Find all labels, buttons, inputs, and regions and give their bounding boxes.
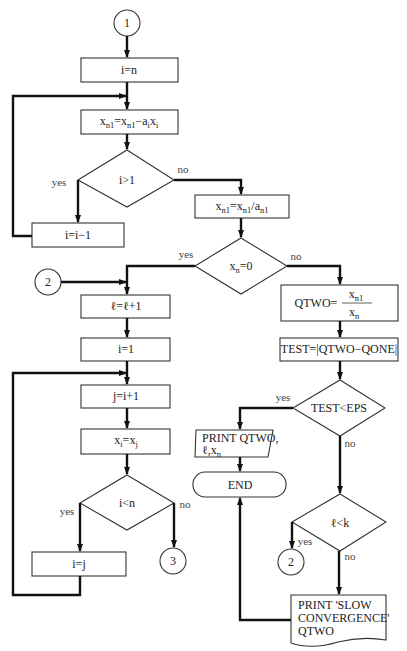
branch-label-no: no [291,250,303,262]
process-xn1-divide: xn1=xn1/an1 [195,195,289,218]
connector-2-left: 2 [35,269,61,295]
connector-label: 3 [170,554,176,568]
connector-3: 3 [160,548,186,574]
process-l-increment: ℓ=ℓ+1 [81,295,170,318]
connector-label: 2 [288,555,294,569]
flow-arrow [174,180,241,194]
terminal-end: END [193,472,286,497]
node-label: i=n [121,63,137,77]
flowchart: 1 i=n xn1=xn1−aixi i>1 yes no i=i−1 xn1=… [0,0,407,651]
decision-test-lt-eps: TEST<EPS [293,380,385,436]
process-test-assign: TEST=|QTWO−QONE| [280,338,398,361]
process-xi-eq-xj: xi=xj [81,429,170,454]
connector-label: 1 [124,16,130,30]
process-xn1-update: xn1=xn1−aixi [81,110,178,134]
process-j-eq-i-plus-1: j=i+1 [81,385,170,408]
node-label: j=i+1 [112,389,139,403]
connector-1-top: 1 [114,10,140,36]
branch-label-yes: yes [276,391,291,403]
branch-label-no: no [345,550,357,562]
decision-i-gt-1: i>1 [78,150,174,207]
node-label: PRINT 'SLOW [298,598,372,612]
process-qtwo: QTWO= xn1 xn [281,285,398,321]
branch-label-yes: yes [60,505,75,517]
flow-arrow [240,408,293,429]
connector-2-right: 2 [278,549,304,575]
node-label: END [228,478,253,492]
node-label: i>1 [119,173,135,187]
process-i-eq-1: i=1 [81,338,170,361]
branch-label-no: no [180,498,192,510]
branch-label-no: no [178,163,190,175]
node-label: xn=0 [229,259,252,275]
node-label: i=1 [118,342,134,356]
node-label: CONVERGENCE' [298,611,390,625]
connector-label: 2 [45,275,51,289]
branch-label-no: no [345,437,357,449]
output-print-qtwo: PRINT QTWO, ℓ,xn [195,430,278,459]
node-label: TEST=|QTWO−QONE| [281,342,397,356]
branch-label-yes: yes [179,248,194,260]
node-label: TEST<EPS [311,401,367,415]
flow-arrow [287,266,340,284]
node-label: xi=xj [114,433,138,449]
node-label: i=i−1 [65,228,91,242]
decision-xn-eq-0: xn=0 [195,238,287,294]
process-i-eq-i-minus-1: i=i−1 [32,223,124,247]
node-label: i<n [119,496,135,510]
node-label: QTWO [298,624,334,638]
node-label: QTWO= [295,296,338,310]
document-print-slow: PRINT 'SLOW CONVERGENCE' QTWO [291,595,390,646]
node-label: ℓ=ℓ+1 [110,299,141,313]
process-i-eq-j: i=j [32,552,126,576]
branch-label-yes: yes [52,176,67,188]
branch-label-yes: yes [298,535,313,547]
decision-i-lt-n: i<n [80,475,174,530]
flow-arrow [127,266,195,294]
node-label: ℓ<k [331,516,350,530]
process-i-eq-n: i=n [81,58,178,82]
node-label: i=j [72,557,85,571]
